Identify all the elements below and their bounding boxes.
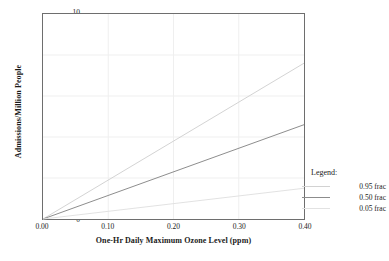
legend-swatch [302, 197, 330, 198]
x-axis-title: One-Hr Daily Maximum Ozone Level (ppm) [42, 236, 305, 245]
series-line-0-05-frac [43, 188, 304, 219]
legend-entry: 0.50 frac [311, 192, 387, 203]
legend-entry: 0.05 frac [311, 203, 387, 214]
plot-area [42, 13, 305, 220]
legend-swatch [302, 208, 330, 209]
legend-entries: 0.95 frac0.50 frac0.05 frac [311, 181, 387, 214]
legend: Legend: 0.95 frac0.50 frac0.05 frac [311, 168, 387, 214]
series-line-0-95-frac [43, 63, 304, 219]
x-tick-label: 0.30 [219, 223, 259, 231]
x-tick-label: 0.40 [285, 223, 325, 231]
legend-title: Legend: [311, 168, 387, 178]
legend-label: 0.05 frac [359, 203, 387, 214]
x-tick-label: 0.10 [88, 223, 128, 231]
series-line-0-50-frac [43, 125, 304, 219]
legend-label: 0.50 frac [359, 192, 387, 203]
chart-figure: 0246810 0.000.100.200.300.40 One-Hr Dail… [0, 0, 389, 261]
legend-label: 0.95 frac [359, 181, 387, 192]
y-axis-title: Admissions/Million People [14, 12, 23, 212]
x-tick-label: 0.00 [22, 223, 62, 231]
legend-entry: 0.95 frac [311, 181, 387, 192]
x-tick-label: 0.20 [154, 223, 194, 231]
legend-swatch [302, 186, 330, 187]
series-lines [43, 14, 304, 219]
